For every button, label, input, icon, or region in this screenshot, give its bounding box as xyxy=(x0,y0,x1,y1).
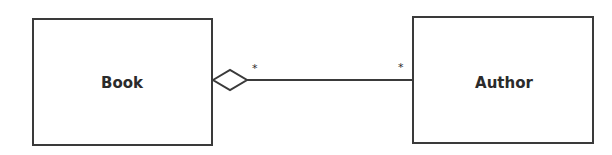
multiplicity-source: * xyxy=(252,62,258,75)
class-label-author: Author xyxy=(475,74,533,92)
class-author: Author xyxy=(413,17,593,143)
multiplicity-target: * xyxy=(398,61,404,74)
class-label-book: Book xyxy=(101,74,144,92)
uml-diagram-canvas: Book * * Author xyxy=(0,0,612,155)
aggregation-association: * * xyxy=(213,61,413,90)
class-book: Book xyxy=(33,19,212,145)
aggregation-diamond-icon xyxy=(213,70,247,90)
